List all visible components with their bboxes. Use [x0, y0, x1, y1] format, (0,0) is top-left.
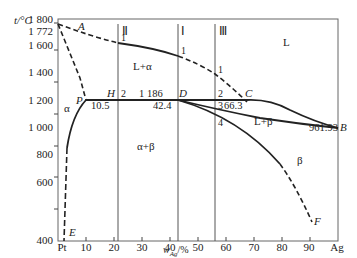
svg-text:800: 800	[37, 148, 54, 160]
x-axis-unit: /%	[177, 244, 188, 255]
svg-text:90: 90	[304, 241, 316, 253]
svg-text:Ⅰ: Ⅰ	[181, 24, 185, 38]
svg-text:1 772: 1 772	[28, 25, 53, 37]
svg-text:L: L	[283, 36, 290, 48]
svg-text:1 200: 1 200	[28, 94, 53, 106]
liquidus-solid	[118, 43, 178, 56]
svg-text:P: P	[75, 94, 83, 106]
svg-text:α+β: α+β	[137, 140, 155, 152]
svg-text:70: 70	[249, 241, 261, 253]
y-tick-labels: 1 800 1 772 1 600 1 400 1 200 1 000 800 …	[28, 13, 53, 246]
svg-text:600: 600	[37, 176, 54, 188]
svg-text:L+α: L+α	[133, 60, 152, 72]
svg-text:1 186: 1 186	[139, 88, 163, 99]
svg-text:30: 30	[137, 241, 149, 253]
svg-text:400: 400	[37, 234, 54, 246]
svg-text:F: F	[313, 215, 321, 227]
svg-text:50: 50	[193, 241, 205, 253]
y-axis-label: t/°C	[14, 14, 33, 26]
plot-frame	[58, 19, 338, 241]
svg-text:Pt: Pt	[57, 241, 66, 253]
svg-text:1 400: 1 400	[28, 66, 53, 78]
svg-text:A: A	[77, 20, 85, 32]
solvus-d-f-dashed	[280, 164, 312, 222]
alloy-lines	[118, 24, 215, 241]
svg-text:1 600: 1 600	[28, 39, 53, 51]
svg-text:Ag: Ag	[330, 241, 344, 253]
svg-text:1 000: 1 000	[28, 121, 53, 133]
svg-text:3: 3	[218, 100, 223, 111]
y-ticks	[54, 23, 58, 209]
svg-text:L+β: L+β	[254, 115, 273, 127]
svg-text:H: H	[106, 87, 116, 99]
svg-text:66.3: 66.3	[224, 100, 242, 111]
liquidus-dashed-right	[178, 56, 247, 102]
svg-text:60: 60	[221, 241, 233, 253]
svg-text:20: 20	[109, 241, 121, 253]
svg-text:80: 80	[277, 241, 289, 253]
svg-text:1 800: 1 800	[28, 13, 53, 25]
svg-text:10: 10	[81, 241, 93, 253]
solvus-p-e-dashed	[64, 148, 67, 241]
svg-text:E: E	[68, 226, 76, 238]
solidus-a-p	[58, 24, 86, 100]
svg-text:1: 1	[181, 45, 186, 56]
svg-text:10.5: 10.5	[91, 100, 109, 111]
x-axis-title: wAg/%	[163, 244, 189, 258]
value-labels: 10.5 42.4 66.3 1 186 961.93	[91, 88, 338, 133]
point-labels: A B C D E F H P	[68, 20, 347, 238]
svg-text:C: C	[245, 87, 253, 99]
x-axis-var: w	[163, 244, 170, 255]
svg-text:1: 1	[218, 64, 223, 75]
svg-text:42.4: 42.4	[153, 100, 172, 111]
svg-text:B: B	[340, 121, 347, 133]
svg-text:D: D	[178, 87, 187, 99]
x-tick-labels: Pt 10 20 30 40 50 60 70 80 90 Ag	[57, 241, 344, 253]
svg-text:1: 1	[121, 32, 126, 43]
solvus-p-e-solid	[67, 100, 86, 148]
liquidus-dashed-left	[58, 24, 118, 43]
svg-text:4: 4	[218, 117, 223, 128]
alloy-labels: Ⅱ Ⅰ Ⅲ	[122, 24, 227, 38]
svg-text:β: β	[297, 154, 303, 166]
svg-text:961.93: 961.93	[309, 122, 338, 133]
svg-text:Ⅲ: Ⅲ	[219, 24, 227, 38]
svg-text:α: α	[64, 102, 70, 114]
svg-text:2: 2	[121, 88, 126, 99]
svg-text:2: 2	[218, 88, 223, 99]
